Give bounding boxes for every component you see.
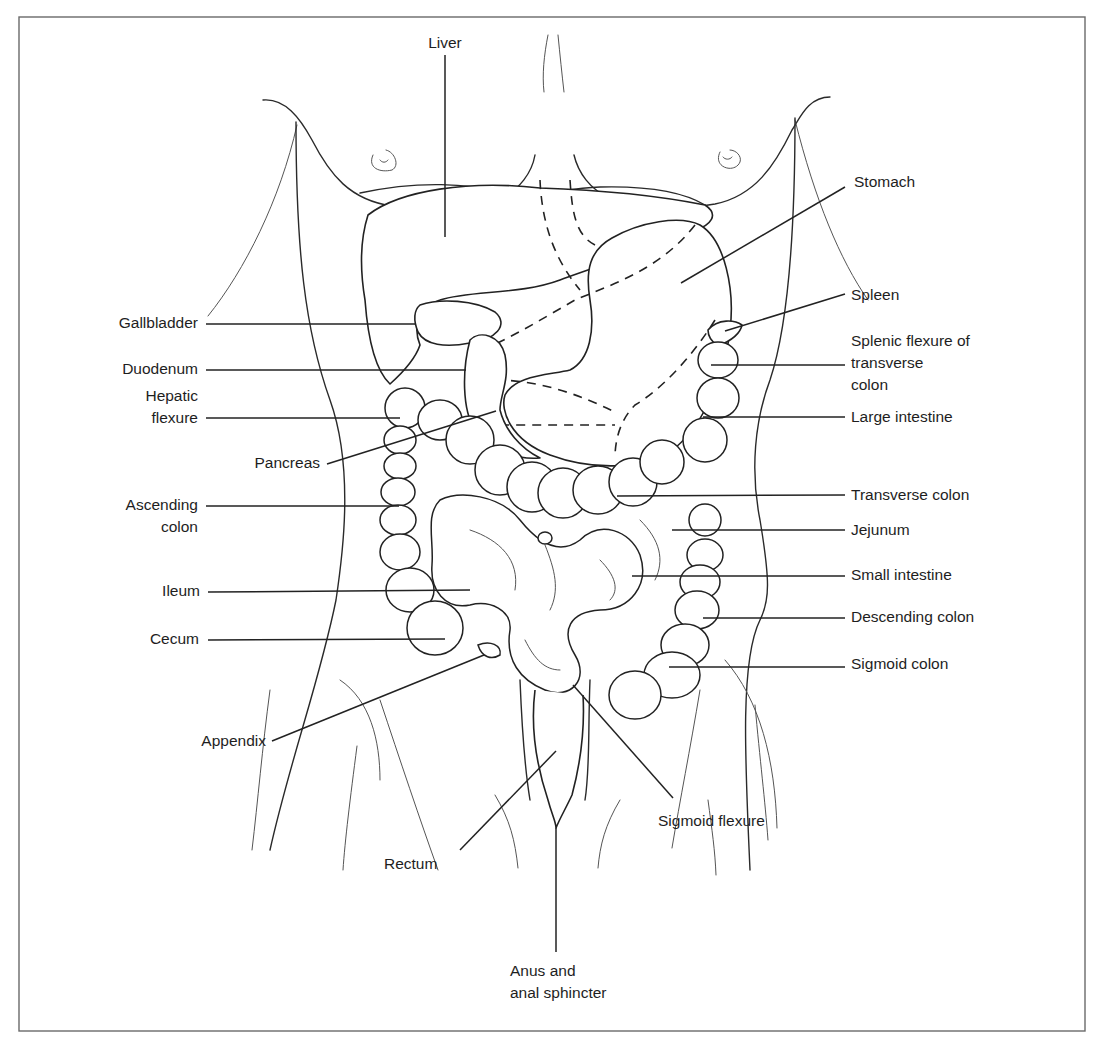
label-appendix: Appendix	[170, 730, 266, 752]
label-ileum: Ileum	[98, 580, 200, 602]
label-gallbladder: Gallbladder	[98, 312, 198, 334]
label-spleen: Spleen	[851, 284, 951, 306]
label-sigmoid-flexure: Sigmoid flexure	[658, 810, 798, 832]
rectum	[533, 690, 583, 828]
label-duodenum: Duodenum	[98, 358, 198, 380]
label-transverse-colon: Transverse colon	[851, 484, 1011, 506]
label-cecum: Cecum	[98, 628, 199, 650]
label-large-intestine: Large intestine	[851, 406, 991, 428]
leader-line-spleen	[725, 294, 845, 331]
label-stomach: Stomach	[854, 171, 954, 193]
label-hepatic-flexure: Hepatic flexure	[98, 385, 198, 429]
label-jejunum: Jejunum	[851, 519, 951, 541]
label-rectum: Rectum	[384, 853, 464, 875]
leader-line-rectum	[460, 751, 556, 850]
leader-line-appendix	[272, 655, 484, 741]
label-liver: Liver	[422, 32, 468, 54]
label-small-intestine: Small intestine	[851, 564, 991, 586]
label-ascending-colon: Ascending colon	[98, 494, 198, 538]
label-anus: Anus and anal sphincter	[510, 960, 640, 1004]
leader-line-transverse-colon	[617, 495, 845, 496]
label-descending-colon: Descending colon	[851, 606, 1021, 628]
leader-line-cecum	[208, 639, 445, 640]
label-pancreas: Pancreas	[222, 452, 320, 474]
label-splenic-flexure: Splenic flexure of transverse colon	[851, 330, 1021, 396]
label-sigmoid-colon: Sigmoid colon	[851, 653, 991, 675]
